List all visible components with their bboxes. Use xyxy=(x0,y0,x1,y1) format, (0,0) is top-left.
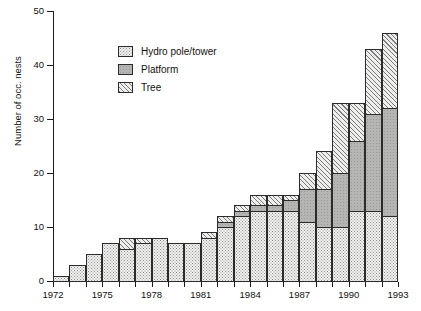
y-tick-label-0: 0 xyxy=(0,276,44,285)
legend-label-tree: Tree xyxy=(141,82,161,93)
y-tick-label-20: 20 xyxy=(0,168,44,177)
bar-segment-1990-tree xyxy=(332,103,348,174)
bar-segment-1983-tree xyxy=(217,216,233,222)
bar-segment-1982-tree xyxy=(201,232,217,238)
x-tick-1989 xyxy=(332,282,333,287)
x-tick-1972 xyxy=(53,282,54,287)
legend-swatch-tree-icon xyxy=(118,82,133,93)
bar-segment-1979-hydro-pole-tower xyxy=(152,238,168,282)
x-tick-label-1990: 1990 xyxy=(329,290,369,300)
bar-segment-1989-tree xyxy=(316,151,332,190)
y-tick-label-30: 30 xyxy=(0,114,44,123)
bar-segment-1984-tree xyxy=(234,205,250,211)
x-tick-1982 xyxy=(217,282,218,287)
x-tick-1983 xyxy=(234,282,235,287)
bar-segment-1986-hydro-pole-tower xyxy=(267,211,283,282)
bar-1991 xyxy=(349,11,365,281)
x-tick-label-1978: 1978 xyxy=(132,290,172,300)
bar-segment-1993-tree xyxy=(382,33,398,110)
bar-segment-1982-hydro-pole-tower xyxy=(201,238,217,282)
bar-segment-1990-platform xyxy=(332,173,348,228)
bar-segment-1985-tree xyxy=(250,195,266,207)
bar-segment-1977-hydro-pole-tower xyxy=(119,249,135,282)
chart-legend: Hydro pole/tower Platform Tree xyxy=(118,42,217,96)
x-tick-1993 xyxy=(398,282,399,287)
bar-segment-1988-platform xyxy=(299,189,315,222)
bar-segment-1974-hydro-pole-tower xyxy=(69,265,85,282)
legend-item-hydro-pole-tower: Hydro pole/tower xyxy=(118,42,217,60)
bar-1984 xyxy=(234,11,250,281)
bar-segment-1991-platform xyxy=(349,141,365,212)
x-tick-label-1975: 1975 xyxy=(82,290,122,300)
x-tick-1977 xyxy=(135,282,136,287)
bar-1976 xyxy=(102,11,118,281)
bar-segment-1992-hydro-pole-tower xyxy=(365,211,381,282)
bar-1988 xyxy=(299,11,315,281)
x-tick-1984 xyxy=(250,282,251,287)
bar-segment-1988-hydro-pole-tower xyxy=(299,222,315,282)
bar-segment-1983-hydro-pole-tower xyxy=(217,227,233,282)
legend-swatch-platform-icon xyxy=(118,64,133,75)
bar-segment-1989-platform xyxy=(316,189,332,228)
bar-segment-1987-tree xyxy=(283,195,299,201)
bar-segment-1988-tree xyxy=(299,173,315,190)
bar-1973 xyxy=(53,11,69,281)
x-tick-1985 xyxy=(267,282,268,287)
x-tick-1987 xyxy=(299,282,300,287)
y-tick-label-40: 40 xyxy=(0,60,44,69)
x-tick-label-1984: 1984 xyxy=(230,290,270,300)
bar-1983 xyxy=(217,11,233,281)
bar-segment-1993-hydro-pole-tower xyxy=(382,216,398,282)
bar-1987 xyxy=(283,11,299,281)
bar-segment-1978-hydro-pole-tower xyxy=(135,243,151,282)
y-tick-label-50: 50 xyxy=(0,6,44,15)
x-tick-1974 xyxy=(86,282,87,287)
bar-segment-1981-hydro-pole-tower xyxy=(184,243,200,282)
x-tick-1975 xyxy=(102,282,103,287)
bar-1992 xyxy=(365,11,381,281)
bar-segment-1990-hydro-pole-tower xyxy=(332,227,348,282)
x-tick-1992 xyxy=(382,282,383,287)
x-tick-1990 xyxy=(349,282,350,287)
x-tick-1978 xyxy=(152,282,153,287)
bar-segment-1992-tree xyxy=(365,49,381,115)
bar-segment-1991-hydro-pole-tower xyxy=(349,211,365,282)
x-tick-1988 xyxy=(316,282,317,287)
legend-item-tree: Tree xyxy=(118,78,217,96)
bar-segment-1987-hydro-pole-tower xyxy=(283,211,299,282)
bar-segment-1977-tree xyxy=(119,238,135,250)
bar-segment-1992-platform xyxy=(365,114,381,212)
x-tick-1980 xyxy=(184,282,185,287)
bar-segment-1976-hydro-pole-tower xyxy=(102,243,118,282)
bar-segment-1989-hydro-pole-tower xyxy=(316,227,332,282)
bar-1974 xyxy=(69,11,85,281)
bar-segment-1991-tree xyxy=(349,103,365,142)
legend-item-platform: Platform xyxy=(118,60,217,78)
x-tick-label-1993: 1993 xyxy=(378,290,418,300)
legend-label-platform: Platform xyxy=(141,64,178,75)
x-tick-1973 xyxy=(69,282,70,287)
x-tick-1979 xyxy=(168,282,169,287)
bar-segment-1978-tree xyxy=(135,238,151,244)
legend-label-hydro-pole-tower: Hydro pole/tower xyxy=(141,46,217,57)
bar-segment-1975-hydro-pole-tower xyxy=(86,254,102,282)
bar-1985 xyxy=(250,11,266,281)
x-tick-1991 xyxy=(365,282,366,287)
bar-1989 xyxy=(316,11,332,281)
x-tick-label-1972: 1972 xyxy=(33,290,73,300)
bar-segment-1980-hydro-pole-tower xyxy=(168,243,184,282)
x-tick-1986 xyxy=(283,282,284,287)
bar-segment-1984-hydro-pole-tower xyxy=(234,216,250,282)
bar-1993 xyxy=(382,11,398,281)
x-tick-1981 xyxy=(201,282,202,287)
x-tick-1976 xyxy=(119,282,120,287)
y-axis-title: Number of occ. nests xyxy=(13,31,23,171)
bar-segment-1993-platform xyxy=(382,108,398,217)
bar-1986 xyxy=(267,11,283,281)
bar-segment-1985-hydro-pole-tower xyxy=(250,211,266,282)
bar-segment-1973-hydro-pole-tower xyxy=(53,276,69,282)
bar-segment-1986-tree xyxy=(267,195,283,207)
y-tick-label-10: 10 xyxy=(0,222,44,231)
x-tick-label-1987: 1987 xyxy=(279,290,319,300)
x-tick-label-1981: 1981 xyxy=(181,290,221,300)
